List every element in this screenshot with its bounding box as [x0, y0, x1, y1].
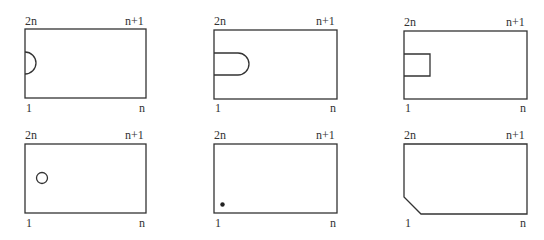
- chamfered-outline: [404, 144, 527, 214]
- label-bottom-left: 1: [215, 216, 221, 230]
- label-top-left: 2n: [25, 128, 37, 142]
- filled-dot: [220, 202, 224, 206]
- label-top-left: 2n: [214, 128, 226, 142]
- label-bottom-right: n: [520, 101, 526, 115]
- label-bottom-right: n: [330, 216, 336, 230]
- label-top-right: n+1: [506, 15, 525, 29]
- panel-outline: [25, 29, 146, 98]
- diagram-canvas: 2n n+1 1 n 2n n+1 1 n 2n n+1 1 n 2n n+1 …: [0, 0, 544, 240]
- panel-outline: [404, 31, 527, 99]
- label-bottom-left: 1: [215, 101, 221, 115]
- label-top-right: n+1: [316, 14, 335, 28]
- label-bottom-left: 1: [26, 216, 32, 230]
- label-top-right: n+1: [125, 14, 144, 28]
- label-bottom-right: n: [330, 101, 336, 115]
- label-top-left: 2n: [404, 128, 416, 142]
- label-bottom-left: 1: [26, 101, 32, 115]
- label-bottom-right: n: [139, 216, 145, 230]
- label-top-left: 2n: [404, 15, 416, 29]
- label-top-right: n+1: [125, 128, 144, 142]
- label-bottom-left: 1: [405, 216, 411, 230]
- panel-2: 2n n+1 1 n: [214, 14, 337, 115]
- panel-3: 2n n+1 1 n: [404, 15, 527, 115]
- panel-outline: [25, 144, 146, 213]
- panel-5: 2n n+1 1 n: [214, 128, 337, 230]
- label-top-left: 2n: [214, 14, 226, 28]
- label-bottom-right: n: [139, 101, 145, 115]
- semicircle-notch: [25, 52, 36, 74]
- u-slot: [214, 53, 249, 75]
- panel-outline: [214, 144, 337, 213]
- panel-outline: [214, 30, 337, 99]
- hollow-circle: [37, 173, 48, 184]
- panel-6: 2n n+1 1 n: [404, 128, 527, 230]
- label-top-right: n+1: [316, 128, 335, 142]
- label-bottom-right: n: [520, 216, 526, 230]
- label-top-right: n+1: [506, 128, 525, 142]
- panel-1: 2n n+1 1 n: [25, 14, 146, 115]
- label-top-left: 2n: [25, 14, 37, 28]
- label-bottom-left: 1: [405, 101, 411, 115]
- square-notch: [404, 54, 430, 76]
- panel-4: 2n n+1 1 n: [25, 128, 146, 230]
